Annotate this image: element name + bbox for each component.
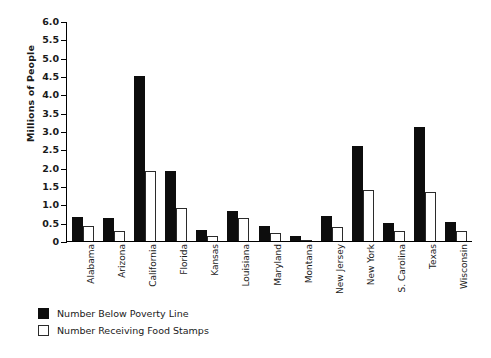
x-label-cell: New York <box>347 244 378 306</box>
bar <box>83 226 94 241</box>
y-tick-label: 2.0 <box>42 163 59 174</box>
bar <box>72 217 83 241</box>
y-tick-label: 1.5 <box>42 181 59 192</box>
bar-group <box>285 21 316 241</box>
y-tick-mark <box>61 95 66 96</box>
bar <box>321 216 332 241</box>
bar <box>425 192 436 242</box>
legend-swatch <box>38 308 49 319</box>
x-label-cell: Maryland <box>254 244 285 306</box>
y-tick-mark <box>61 59 66 60</box>
legend-label: Number Receiving Food Stamps <box>57 325 209 336</box>
y-tick-mark <box>61 114 66 115</box>
bar <box>352 146 363 241</box>
x-axis-label: Louisiana <box>242 244 251 287</box>
bar <box>196 230 207 241</box>
x-label-cell: Florida <box>160 244 191 306</box>
y-tick-label: 3.5 <box>42 108 59 119</box>
bar-group <box>254 21 285 241</box>
x-label-cell: Montana <box>285 244 316 306</box>
y-tick-mark <box>61 224 66 225</box>
bar <box>259 226 270 241</box>
y-tick-label: 5.5 <box>42 34 59 45</box>
x-axis-label: New Jersey <box>336 244 345 294</box>
x-label-cell: Alabama <box>67 244 98 306</box>
bar-group <box>129 21 160 241</box>
bar <box>165 171 176 241</box>
y-axis-title: Millions of People <box>25 0 36 194</box>
bar-group <box>192 21 223 241</box>
y-tick-label: 6.0 <box>42 16 59 27</box>
bar <box>145 171 156 241</box>
y-tick-label: 0.5 <box>42 218 59 229</box>
bar <box>363 190 374 241</box>
bar <box>270 233 281 241</box>
x-axis-label: Texas <box>429 244 438 269</box>
y-tick-mark <box>61 150 66 151</box>
y-tick-mark <box>61 242 66 243</box>
x-label-cell: S. Carolina <box>379 244 410 306</box>
x-axis-label: Alabama <box>87 244 96 284</box>
plot-area: 6.05.55.04.54.03.53.02.52.01.51.00.50 <box>66 22 472 242</box>
x-label-cell: Louisiana <box>223 244 254 306</box>
x-axis-label: Wisconsin <box>460 244 469 289</box>
bar-group <box>160 21 191 241</box>
bar <box>383 223 394 241</box>
x-axis-label: Florida <box>180 244 189 275</box>
bar <box>114 231 125 241</box>
x-label-cell: Kansas <box>192 244 223 306</box>
bar-group <box>67 21 98 241</box>
bar <box>445 222 456 241</box>
chart-legend: Number Below Poverty LineNumber Receivin… <box>38 305 209 339</box>
y-tick-label: 0 <box>52 236 59 247</box>
x-label-cell: Wisconsin <box>441 244 472 306</box>
bar-group <box>316 21 347 241</box>
bar <box>394 231 405 241</box>
bar-group <box>223 21 254 241</box>
y-tick-mark <box>61 22 66 23</box>
bar-group <box>441 21 472 241</box>
y-tick-mark <box>61 77 66 78</box>
y-tick-mark <box>61 205 66 206</box>
bar-group <box>410 21 441 241</box>
bar-groups <box>67 21 472 241</box>
bar-group <box>98 21 129 241</box>
x-axis-label: Arizona <box>118 244 127 278</box>
x-label-cell: California <box>129 244 160 306</box>
bar <box>414 127 425 241</box>
x-axis-label: Kansas <box>211 244 220 276</box>
bar <box>103 218 114 241</box>
x-axis-label: S. Carolina <box>398 244 407 292</box>
y-tick-label: 3.0 <box>42 126 59 137</box>
bar <box>227 211 238 241</box>
legend-swatch <box>38 325 49 336</box>
y-tick-label: 5.0 <box>42 53 59 64</box>
y-tick-label: 1.0 <box>42 199 59 210</box>
x-axis-labels: AlabamaArizonaCaliforniaFloridaKansasLou… <box>67 244 472 306</box>
y-tick-mark <box>61 187 66 188</box>
y-tick-label: 4.0 <box>42 89 59 100</box>
bar <box>456 231 467 241</box>
bar-chart: Millions of People 6.05.55.04.54.03.53.0… <box>0 0 491 358</box>
y-tick-mark <box>61 169 66 170</box>
y-tick-mark <box>61 40 66 41</box>
y-tick-label: 4.5 <box>42 71 59 82</box>
y-tick-label: 2.5 <box>42 144 59 155</box>
y-tick-mark <box>61 132 66 133</box>
x-axis-line <box>66 241 472 242</box>
x-label-cell: Texas <box>410 244 441 306</box>
x-axis-label: Maryland <box>274 244 283 286</box>
x-axis-label: California <box>149 244 158 287</box>
x-label-cell: Arizona <box>98 244 129 306</box>
legend-label: Number Below Poverty Line <box>57 308 189 319</box>
bar-group <box>379 21 410 241</box>
bar-group <box>347 21 378 241</box>
bar <box>332 227 343 241</box>
x-axis-label: New York <box>367 244 376 285</box>
x-axis-label: Montana <box>305 244 314 283</box>
legend-item: Number Below Poverty Line <box>38 305 209 322</box>
bar <box>290 236 301 242</box>
bar <box>176 208 187 241</box>
x-label-cell: New Jersey <box>316 244 347 306</box>
legend-item: Number Receiving Food Stamps <box>38 322 209 339</box>
